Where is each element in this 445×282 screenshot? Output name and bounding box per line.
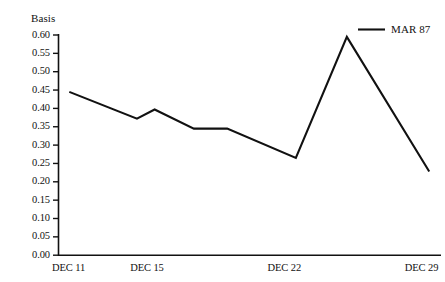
y-axis-tick-label: 0.25 <box>16 157 50 168</box>
y-axis-tick-label: 0.00 <box>16 249 50 260</box>
y-axis-tick-label: 0.40 <box>16 102 50 113</box>
y-axis-tick-label: 0.10 <box>16 212 50 223</box>
data-series-mar-87 <box>69 37 429 172</box>
y-axis-ticks <box>53 35 59 255</box>
x-axis-tick-label: DEC 29 <box>390 262 445 273</box>
y-axis-tick-label: 0.05 <box>16 230 50 241</box>
y-axis-tick-label: 0.60 <box>16 29 50 40</box>
legend-entry-mar-87: MAR 87 <box>391 23 430 35</box>
y-axis-tick-label: 0.35 <box>16 120 50 131</box>
y-axis-tick-label: 0.55 <box>16 47 50 58</box>
y-axis-tick-label: 0.15 <box>16 194 50 205</box>
chart-canvas <box>0 0 445 282</box>
y-axis-tick-label: 0.50 <box>16 65 50 76</box>
y-axis-tick-label: 0.20 <box>16 175 50 186</box>
y-axis-tick-label: 0.45 <box>16 84 50 95</box>
x-axis-tick-label: DEC 15 <box>115 262 179 273</box>
y-axis-tick-label: 0.30 <box>16 139 50 150</box>
line-chart: Basis 0.000.050.100.150.200.250.300.350.… <box>0 0 445 282</box>
x-axis-tick-label: DEC 11 <box>37 262 101 273</box>
x-axis-tick-label: DEC 22 <box>252 262 316 273</box>
